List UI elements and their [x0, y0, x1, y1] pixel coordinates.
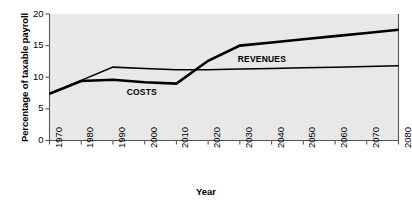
x-tick-label: 2060	[339, 126, 349, 147]
y-tick-label: 20	[16, 9, 44, 19]
series-annotation-revenues: REVENUES	[238, 54, 286, 64]
y-tick-label: 5	[16, 103, 44, 113]
x-tick-label: 2000	[149, 126, 159, 147]
x-tick-label: 2040	[276, 126, 286, 147]
x-tick-label: 1990	[117, 126, 127, 147]
x-tick-label: 1970	[54, 126, 64, 147]
plot-area	[0, 0, 412, 203]
x-tick-label: 2020	[212, 126, 222, 147]
x-tick-label: 2080	[403, 126, 412, 147]
y-tick-label: 15	[16, 40, 44, 50]
x-tick-label: 1980	[85, 126, 95, 147]
x-tick-label: 2070	[371, 126, 381, 147]
y-tick-label: 0	[16, 135, 44, 145]
x-axis-title: Year	[0, 186, 412, 197]
chart-figure: Percentage of taxable payroll 0510152019…	[0, 0, 412, 203]
y-tick-label: 10	[16, 72, 44, 82]
x-tick-label: 2030	[244, 126, 254, 147]
series-annotation-costs: COSTS	[127, 87, 157, 97]
x-tick-label: 2010	[180, 126, 190, 147]
x-tick-label: 2050	[307, 126, 317, 147]
